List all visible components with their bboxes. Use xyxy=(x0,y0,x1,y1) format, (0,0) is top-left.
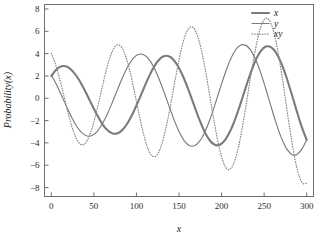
x-tick-label: 100 xyxy=(130,201,144,211)
y-tick-label: −4 xyxy=(30,138,40,148)
line-chart: 050100150200250300 −8−6−4−202468 xyxy x … xyxy=(0,0,322,236)
y-tick-label: −2 xyxy=(30,116,40,126)
legend-label-xy: xy xyxy=(273,29,283,39)
x-tick-label: 150 xyxy=(172,201,186,211)
x-tick-label: 200 xyxy=(215,201,229,211)
y-tick-label: −6 xyxy=(30,160,40,170)
x-tick-label: 250 xyxy=(257,201,271,211)
x-axis-label: x xyxy=(176,223,182,234)
legend-label-y: y xyxy=(273,19,279,29)
y-axis-label: Probability(x) xyxy=(2,71,14,129)
y-tick-label: 0 xyxy=(35,93,40,103)
y-tick-label: −8 xyxy=(30,183,40,193)
x-tick-label: 0 xyxy=(49,201,54,211)
y-tick-label: 8 xyxy=(35,4,40,14)
x-tick-label: 300 xyxy=(300,201,314,211)
y-tick-label: 6 xyxy=(35,26,40,36)
x-tick-label: 50 xyxy=(89,201,99,211)
y-tick-label: 2 xyxy=(35,71,40,81)
chart-figure: 050100150200250300 −8−6−4−202468 xyxy x … xyxy=(0,0,322,236)
y-tick-label: 4 xyxy=(35,49,40,59)
legend-label-x: x xyxy=(273,8,279,18)
